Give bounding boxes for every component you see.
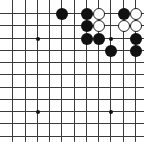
white-stone[interactable] (93, 8, 105, 20)
star-point (36, 110, 40, 114)
black-stone[interactable] (56, 8, 68, 20)
black-stone[interactable] (130, 45, 142, 57)
black-stone[interactable] (93, 33, 105, 45)
white-stone[interactable] (130, 20, 142, 32)
black-stone[interactable] (81, 33, 93, 45)
grid-line-vertical (25, 0, 26, 142)
star-point (109, 37, 113, 41)
white-stone[interactable] (93, 20, 105, 32)
black-stone[interactable] (81, 20, 93, 32)
star-point (109, 110, 113, 114)
grid-line-vertical (61, 0, 62, 142)
go-board[interactable] (0, 0, 144, 152)
star-point (36, 37, 40, 41)
white-stone[interactable] (118, 20, 130, 32)
grid-line-vertical (74, 0, 75, 142)
black-stone[interactable] (105, 45, 117, 57)
grid-line-vertical (49, 0, 50, 142)
grid-line-vertical (12, 0, 13, 142)
grid-line-vertical (110, 0, 111, 142)
black-stone[interactable] (81, 8, 93, 20)
white-stone[interactable] (130, 8, 142, 20)
board-edge-fade (0, 140, 144, 152)
black-stone[interactable] (118, 8, 130, 20)
black-stone[interactable] (130, 33, 142, 45)
grid-line-vertical (37, 0, 38, 142)
